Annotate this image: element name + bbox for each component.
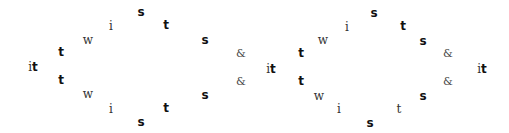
bottom-arc-node: t	[163, 102, 169, 114]
bottom-arc-node: t	[58, 74, 64, 86]
top-arc-node: &	[236, 48, 246, 59]
start-t: t	[32, 60, 38, 74]
bottom-arc-node: w	[314, 90, 324, 102]
top-arc-node: w	[318, 34, 328, 46]
top-arc-node: i	[345, 21, 349, 33]
top-arc-node: w	[83, 34, 93, 46]
bottom-arc-node: &	[236, 76, 246, 87]
end-node-it: it	[477, 60, 487, 76]
top-arc-node: t	[298, 47, 304, 59]
bottom-arc-node: t	[397, 103, 402, 115]
bottom-arc-node: s	[137, 116, 144, 128]
end-t: t	[481, 62, 487, 76]
bottom-arc-node: s	[419, 90, 426, 102]
start-node-it: it	[28, 58, 38, 74]
bottom-arc-node: i	[337, 103, 341, 115]
diagram-canvas: it t w i s t s & t w i s t s & it t w i …	[0, 0, 509, 133]
start-node-it: it	[266, 60, 276, 76]
bottom-arc-node: i	[109, 103, 113, 115]
bottom-arc-node: s	[201, 89, 208, 101]
top-arc-node: t	[400, 20, 406, 32]
top-arc-node: &	[443, 48, 453, 59]
bottom-arc-node: t	[298, 75, 304, 87]
top-arc-node: s	[201, 34, 208, 46]
top-arc-node: s	[419, 35, 426, 47]
top-arc-node: i	[109, 20, 113, 32]
bottom-arc-node: w	[83, 88, 93, 100]
top-arc-node: s	[370, 7, 377, 19]
bottom-arc-node: s	[366, 117, 373, 129]
start-t: t	[270, 62, 276, 76]
top-arc-node: s	[137, 6, 144, 18]
top-arc-node: t	[58, 46, 64, 58]
top-arc-node: t	[163, 19, 169, 31]
bottom-arc-node: &	[443, 76, 453, 87]
